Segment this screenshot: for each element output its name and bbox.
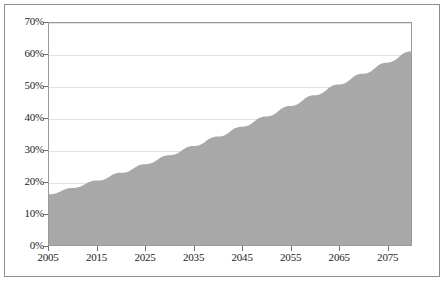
y-axis: 0%10%20%30%40%50%60%70%	[0, 0, 44, 292]
y-axis-tick-mark	[43, 150, 48, 151]
series-area-path	[49, 23, 411, 245]
area-chart: 0%10%20%30%40%50%60%70% 2005201520252035…	[0, 0, 447, 292]
y-axis-tick-label: 20%	[0, 176, 44, 187]
y-axis-tick-label: 10%	[0, 208, 44, 219]
y-axis-tick-mark	[43, 182, 48, 183]
plot-area	[48, 22, 412, 246]
y-axis-tick-label: 0%	[0, 240, 44, 251]
x-axis-tick-label: 2005	[23, 252, 73, 263]
x-axis-tick-label: 2015	[72, 252, 122, 263]
x-axis: 20052015202520352045205520652075	[0, 252, 447, 272]
x-axis-tick-label: 2065	[314, 252, 364, 263]
y-axis-tick-label: 50%	[0, 80, 44, 91]
y-axis-tick-mark	[43, 22, 48, 23]
area-fill	[49, 52, 411, 245]
x-axis-tick-label: 2075	[363, 252, 413, 263]
y-axis-tick-mark	[43, 54, 48, 55]
y-axis-tick-mark	[43, 86, 48, 87]
y-axis-tick-label: 40%	[0, 112, 44, 123]
y-axis-tick-label: 60%	[0, 48, 44, 59]
x-axis-tick-label: 2055	[266, 252, 316, 263]
x-axis-tick-label: 2025	[120, 252, 170, 263]
y-axis-tick-mark	[43, 118, 48, 119]
y-axis-tick-mark	[43, 214, 48, 215]
x-axis-tick-label: 2035	[169, 252, 219, 263]
x-axis-tick-label: 2045	[217, 252, 267, 263]
y-axis-tick-label: 70%	[0, 16, 44, 27]
y-axis-tick-label: 30%	[0, 144, 44, 155]
